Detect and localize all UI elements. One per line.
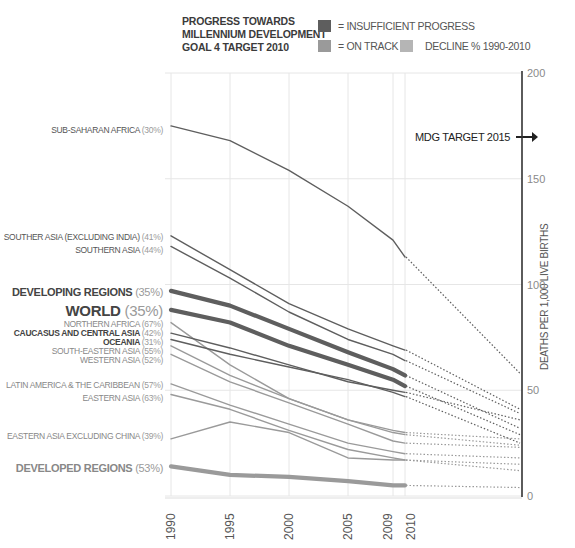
projection-group (406, 257, 520, 488)
series-line (171, 126, 405, 257)
projection-line (406, 443, 520, 447)
series-label: WORLD (35%) (65, 302, 163, 319)
series-decline-pct: (57%) (142, 380, 164, 390)
series-line (171, 384, 405, 454)
x-tick-label: 2005 (341, 513, 355, 540)
series-label: EASTERN ASIA EXCLUDING CHINA (39%) (7, 431, 164, 441)
series-name: EASTERN ASIA EXCLUDING CHINA (7, 431, 142, 441)
series-name: DEVELOPED REGIONS (16, 462, 135, 474)
series-line (171, 323, 405, 433)
series-line (171, 466, 405, 485)
series-label: EASTERN ASIA (63%) (82, 393, 163, 403)
projection-line (406, 460, 520, 464)
series-decline-pct: (30%) (142, 125, 164, 135)
series-labels: SUB-SAHARAN AFRICA (30%)SOUTHER ASIA (EX… (4, 125, 164, 474)
series-name: LATIN AMERICA & THE CARIBBEAN (6, 380, 142, 390)
x-tick-label: 2000 (282, 513, 296, 540)
projection-line (406, 350, 520, 409)
line-chart: 050100150200199019952000200520092010 SUB… (0, 0, 575, 548)
projection-line (406, 361, 520, 414)
series-decline-pct: (35%) (135, 286, 163, 298)
projection-line (406, 454, 520, 458)
series-line (171, 339, 405, 396)
series-name: DEVELOPING REGIONS (12, 286, 135, 298)
series-decline-pct: (39%) (142, 431, 164, 441)
series-label: SUB-SAHARAN AFRICA (30%) (51, 125, 163, 135)
series-label: SOUTHERN ASIA (44%) (75, 245, 163, 255)
series-label: DEVELOPED REGIONS (53%) (16, 462, 163, 474)
series-label: SOUTHER ASIA (EXCLUDING INDIA) (41%) (4, 232, 164, 242)
series-decline-pct: (63%) (142, 393, 164, 403)
series-label: DEVELOPING REGIONS (35%) (12, 286, 163, 298)
series-decline-pct: (41%) (142, 232, 164, 242)
projection-line (406, 375, 520, 428)
series-line (171, 236, 405, 350)
x-tick-label: 1990 (164, 513, 178, 540)
series-label: WESTERN ASIA (52%) (80, 355, 163, 365)
projection-line (406, 485, 520, 487)
projection-line (406, 386, 520, 435)
series-decline-pct: (35%) (124, 302, 163, 319)
y-tick-label: 100 (527, 279, 545, 291)
series-label: LATIN AMERICA & THE CARIBBEAN (57%) (6, 380, 163, 390)
series-name: SOUTHERN ASIA (75, 245, 142, 255)
series-name: WESTERN ASIA (80, 355, 142, 365)
x-tick-label: 2009 (381, 513, 395, 540)
y-tick-label: 50 (527, 384, 539, 396)
series-decline-pct: (53%) (135, 462, 163, 474)
series-decline-pct: (44%) (142, 245, 164, 255)
series-line (171, 422, 405, 460)
series-name: SUB-SAHARAN AFRICA (51, 125, 142, 135)
series-group (171, 126, 405, 486)
projection-line (406, 433, 520, 439)
series-name: WORLD (65, 302, 124, 319)
series-line (171, 394, 405, 460)
projection-line (406, 392, 520, 419)
grid (165, 73, 522, 498)
x-tick-label: 2010 (404, 513, 418, 540)
x-tick-label: 1995 (223, 513, 237, 540)
projection-line (406, 257, 520, 373)
y-tick-label: 200 (527, 67, 545, 79)
series-decline-pct: (52%) (142, 355, 164, 365)
series-name: SOUTHER ASIA (EXCLUDING INDIA) (4, 232, 142, 242)
y-tick-label: 0 (527, 490, 533, 502)
series-name: EASTERN ASIA (82, 393, 141, 403)
y-tick-label: 150 (527, 173, 545, 185)
